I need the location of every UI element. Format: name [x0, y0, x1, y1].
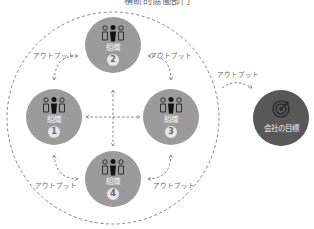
people-icon — [100, 25, 126, 42]
output-label-top-right: アウトプット — [150, 50, 192, 60]
organization-4: 組織 4 — [85, 151, 141, 207]
organization-label: 組織 — [164, 115, 178, 124]
people-icon — [100, 159, 126, 176]
company-goal-label: 会社の目標 — [264, 122, 299, 133]
organization-2: 組織 2 — [85, 17, 141, 73]
organization-label: 組織 — [106, 43, 120, 52]
output-label-bottom-right: アウトプット — [153, 180, 195, 190]
output-label-top-left: アウトプット — [33, 50, 75, 60]
organization-number: 4 — [107, 188, 119, 200]
target-icon — [271, 99, 291, 119]
organization-number: 1 — [48, 126, 60, 138]
output-label-to-goal: アウトプット — [217, 69, 259, 79]
organization-label: 組織 — [106, 177, 120, 186]
output-label-bottom-left: アウトプット — [35, 180, 77, 190]
organization-1: 組織 1 — [26, 89, 82, 145]
people-icon — [41, 97, 67, 114]
organization-label: 組織 — [47, 115, 61, 124]
organization-3: 組織 3 — [143, 89, 199, 145]
people-icon — [158, 97, 184, 114]
collaboration-diagram: 横断的協働部門 — [0, 0, 314, 229]
organization-number: 3 — [165, 126, 177, 138]
company-goal: 会社の目標 — [253, 90, 309, 146]
organization-number: 2 — [107, 54, 119, 66]
